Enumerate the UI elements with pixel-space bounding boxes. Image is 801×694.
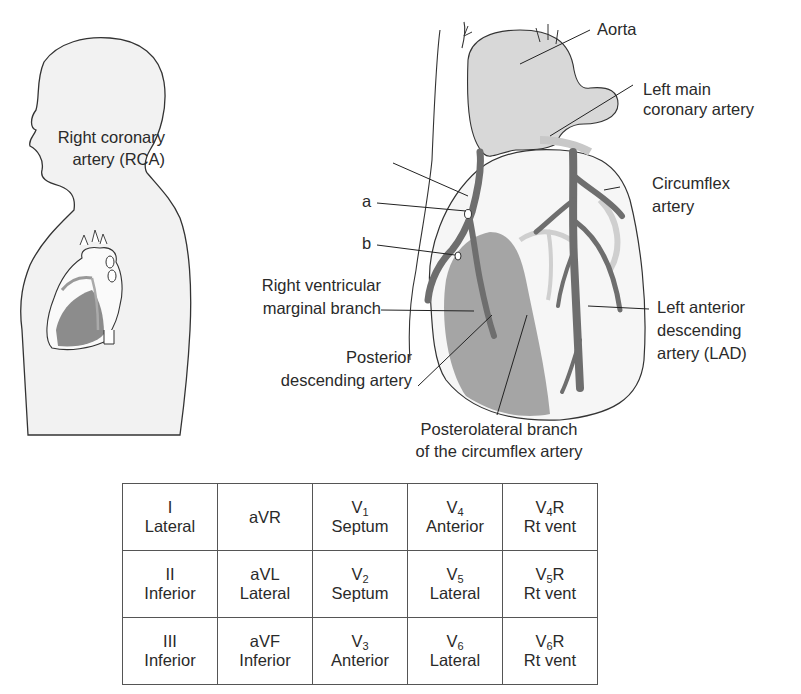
lead-base: V bbox=[535, 632, 546, 650]
lead-cell: ILateral bbox=[123, 484, 218, 551]
table-row: IIInferioraVLLateralV2SeptumV5LateralV5R… bbox=[123, 551, 598, 618]
label-rca-line1: Right coronary bbox=[58, 127, 165, 147]
label-posterolateral-line1: Posterolateral branch bbox=[386, 419, 612, 439]
lead-name: II bbox=[123, 565, 217, 584]
lead-base: V bbox=[446, 565, 457, 583]
label-aorta: Aorta bbox=[597, 19, 636, 39]
lead-cell: aVLLateral bbox=[218, 551, 313, 618]
lead-region: Anterior bbox=[408, 517, 502, 536]
lead-base: III bbox=[163, 632, 177, 650]
lead-region: Lateral bbox=[408, 651, 502, 670]
lead-name: V6 bbox=[408, 632, 502, 651]
lead-base: V bbox=[535, 498, 546, 516]
table-row: ILateralaVRV1SeptumV4AnteriorV4RRt vent bbox=[123, 484, 598, 551]
lead-base: V bbox=[446, 632, 457, 650]
lead-name: V1 bbox=[313, 498, 407, 517]
lead-cell: V2Septum bbox=[313, 551, 408, 618]
lead-region: Lateral bbox=[123, 517, 217, 536]
label-left-main-line1: Left main bbox=[643, 79, 711, 99]
lead-cell: V3Anterior bbox=[313, 618, 408, 685]
label-lad-line1: Left anterior bbox=[657, 297, 745, 317]
lead-cell: V6RRt vent bbox=[503, 618, 598, 685]
lead-name: aVF bbox=[218, 632, 312, 651]
lead-name: I bbox=[123, 498, 217, 517]
label-circumflex-line1: Circumflex bbox=[652, 173, 730, 193]
lead-suffix: R bbox=[553, 565, 565, 583]
lead-name: V4 bbox=[408, 498, 502, 517]
lead-cell: aVFInferior bbox=[218, 618, 313, 685]
label-rca-line2: artery (RCA) bbox=[72, 149, 165, 169]
lead-name: V5R bbox=[503, 565, 597, 584]
lead-name: aVL bbox=[218, 565, 312, 584]
lead-name: V3 bbox=[313, 632, 407, 651]
label-lad-line3: artery (LAD) bbox=[657, 343, 747, 363]
lead-region: Rt vent bbox=[503, 517, 597, 536]
person-silhouette bbox=[21, 38, 191, 435]
lead-suffix: R bbox=[553, 632, 565, 650]
lead-cell: V6Lateral bbox=[408, 618, 503, 685]
lead-name: aVR bbox=[218, 508, 312, 527]
ecg-lead-territory-table: ILateralaVRV1SeptumV4AnteriorV4RRt ventI… bbox=[122, 483, 598, 685]
lead-region: Septum bbox=[313, 517, 407, 536]
lead-cell: aVR bbox=[218, 484, 313, 551]
label-a: a bbox=[362, 191, 371, 211]
lead-name: V4R bbox=[503, 498, 597, 517]
label-left-main-line2: coronary artery bbox=[643, 99, 754, 119]
lead-suffix: R bbox=[553, 498, 565, 516]
lead-base: V bbox=[535, 565, 546, 583]
lead-cell: V1Septum bbox=[313, 484, 408, 551]
label-lad-line2: descending bbox=[657, 320, 741, 340]
label-circumflex-line2: artery bbox=[652, 196, 694, 216]
lead-base: II bbox=[165, 565, 174, 583]
label-posterolateral-line2: of the circumflex artery bbox=[386, 441, 612, 461]
lead-base: V bbox=[351, 632, 362, 650]
lead-base: aVF bbox=[250, 632, 280, 650]
lead-cell: IIIInferior bbox=[123, 618, 218, 685]
lead-region: Rt vent bbox=[503, 651, 597, 670]
label-rv-marginal-line1: Right ventricular bbox=[262, 275, 381, 295]
lead-base: aVL bbox=[250, 565, 279, 583]
lead-name: V5 bbox=[408, 565, 502, 584]
lead-name: III bbox=[123, 632, 217, 651]
coronary-anatomy-illustration bbox=[0, 0, 801, 470]
lead-cell: V5RRt vent bbox=[503, 551, 598, 618]
lead-region: Lateral bbox=[218, 584, 312, 603]
lead-region: Inferior bbox=[123, 651, 217, 670]
lead-name: V2 bbox=[313, 565, 407, 584]
lead-cell: V5Lateral bbox=[408, 551, 503, 618]
table-row: IIIInferioraVFInferiorV3AnteriorV6Latera… bbox=[123, 618, 598, 685]
label-pda-line1: Posterior bbox=[346, 347, 412, 367]
label-pda-line2: descending artery bbox=[281, 370, 412, 390]
lead-region: Rt vent bbox=[503, 584, 597, 603]
lead-cell: IIInferior bbox=[123, 551, 218, 618]
lead-name: V6R bbox=[503, 632, 597, 651]
label-b: b bbox=[362, 233, 371, 253]
label-rv-marginal-line2: marginal branch bbox=[263, 298, 381, 318]
lead-cell: V4RRt vent bbox=[503, 484, 598, 551]
lead-region: Anterior bbox=[313, 651, 407, 670]
lead-region: Septum bbox=[313, 584, 407, 603]
lead-base: V bbox=[446, 498, 457, 516]
lead-base: aVR bbox=[249, 508, 281, 526]
lead-cell: V4Anterior bbox=[408, 484, 503, 551]
lead-region: Inferior bbox=[123, 584, 217, 603]
lead-region: Lateral bbox=[408, 584, 502, 603]
lead-base: I bbox=[168, 498, 173, 516]
lead-base: V bbox=[351, 565, 362, 583]
lead-region: Inferior bbox=[218, 651, 312, 670]
lead-base: V bbox=[351, 498, 362, 516]
